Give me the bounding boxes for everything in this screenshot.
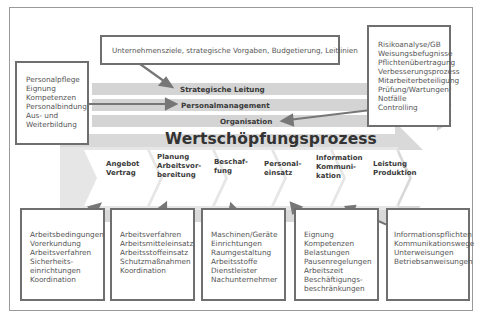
- step-planung: Planung Arbeitsvor- bereitung: [157, 153, 201, 180]
- bottom-box-line: Vorerkundung: [30, 239, 103, 248]
- right-box-line: Weisungsbefugnisse: [378, 49, 449, 58]
- step-line: Personal-: [264, 160, 301, 169]
- bottom-box-line: Arbeitsstoffeinsatz: [120, 248, 193, 257]
- left-box-line: Aus- und: [26, 111, 87, 120]
- bottom-box-line: Koordination: [30, 275, 103, 284]
- bottom-box-line: Unterweisungen: [394, 248, 468, 257]
- left-box-line: Personalpflege: [26, 75, 87, 84]
- risk-analysis-box: Risikoanalyse/GB Weisungsbefugnisse Pfli…: [367, 25, 451, 127]
- bottom-box-line: Informationspflichten: [394, 230, 468, 239]
- bottom-box-line: Beschäftigungs-: [304, 275, 377, 284]
- left-box-line: Weiterbildung: [26, 120, 87, 129]
- step-personaleinsatz: Personal- einsatz: [264, 160, 301, 178]
- bottom-box-line: Raumgestaltung: [211, 248, 284, 257]
- step-line: fung: [214, 167, 248, 176]
- step-line: Produktion: [373, 169, 417, 178]
- bottom-box-line: Arbeitsbedingungen: [30, 230, 103, 239]
- bottom-box-line: Eignung: [304, 230, 377, 239]
- personnel-care-box: Personalpflege Eignung Kompetenzen Perso…: [15, 61, 89, 145]
- value-chain-title: Wertschöpfungsprozess: [165, 130, 377, 148]
- step-line: Leistung: [373, 160, 417, 169]
- left-box-line: Personalbindung: [26, 102, 87, 111]
- band-label-organisation: Organisation: [220, 117, 272, 126]
- step-angebot-vertrag: Angebot Vertrag: [106, 160, 139, 178]
- work-procedures-box: Arbeitsverfahren Arbeitsmitteleinsatz Ar…: [110, 208, 195, 301]
- step-line: einsatz: [264, 169, 301, 178]
- strategic-goals-text: Unternehmensziele, strategische Vorgaben…: [112, 46, 338, 55]
- step-line: kation: [316, 172, 362, 181]
- step-line: Angebot: [106, 160, 139, 169]
- band-label-personalmanagement: Personalmanagement: [181, 101, 270, 110]
- work-conditions-box: Arbeitsbedingungen Vorerkundung Arbeitsv…: [20, 208, 105, 301]
- bottom-box-line: Arbeitsverfahren: [120, 230, 193, 239]
- bottom-box-line: Einrichtungen: [211, 239, 284, 248]
- step-line: Vertrag: [106, 169, 139, 178]
- left-box-line: Eignung: [26, 84, 87, 93]
- step-beschaffung: Beschaf- fung: [214, 158, 248, 176]
- bottom-box-line: Pausenregelungen: [304, 257, 377, 266]
- step-leistung-produktion: Leistung Produktion: [373, 160, 417, 178]
- right-box-line: Verbesserungsprozess: [378, 67, 449, 76]
- bottom-box-line: Schutzmaßnahmen: [120, 257, 193, 266]
- bottom-box-line: einrichtungen: [30, 266, 103, 275]
- bottom-box-line: Sicherheits-: [30, 257, 103, 266]
- bottom-box-line: Arbeitsmitteleinsatz: [120, 239, 193, 248]
- step-information-kommunikation: Information Kommuni- kation: [316, 154, 362, 181]
- process-chevrons: [84, 150, 463, 206]
- bottom-box-line: Kommunikationswege: [394, 239, 468, 248]
- bottom-box-line: Belastungen: [304, 248, 377, 257]
- strategic-goals-box: Unternehmensziele, strategische Vorgaben…: [100, 35, 340, 65]
- bottom-box-line: beschränkungen: [304, 284, 377, 293]
- bottom-box-line: Kompetenzen: [304, 239, 377, 248]
- right-box-line: Pflichtenübertragung: [378, 58, 449, 67]
- right-box-line: Prüfung/Wartungen: [378, 85, 449, 94]
- machines-equipment-box: Maschinen/Geräte Einrichtungen Raumgesta…: [201, 208, 286, 301]
- step-line: bereitung: [157, 171, 201, 180]
- bottom-box-line: Maschinen/Geräte: [211, 230, 284, 239]
- right-box-line: Notfälle: [378, 94, 449, 103]
- right-box-line: Controlling: [378, 103, 449, 112]
- bottom-box-line: Arbeitszeit: [304, 266, 377, 275]
- step-line: Planung: [157, 153, 201, 162]
- left-box-line: Kompetenzen: [26, 93, 87, 102]
- step-line: Kommuni-: [316, 163, 362, 172]
- bottom-box-line: Betriebsanweisungen: [394, 257, 468, 266]
- bottom-box-line: Koordination: [120, 266, 193, 275]
- bottom-box-line: Nachunternehmer: [211, 275, 284, 284]
- step-line: Beschaf-: [214, 158, 248, 167]
- information-duties-box: Informationspflichten Kommunikationswege…: [386, 208, 470, 301]
- bottom-box-line: Arbeitsverfahren: [30, 248, 103, 257]
- step-line: Information: [316, 154, 362, 163]
- step-line: Arbeitsvor-: [157, 162, 201, 171]
- right-box-line: Risikoanalyse/GB: [378, 40, 449, 49]
- bottom-box-line: Dienstleister: [211, 266, 284, 275]
- bottom-box-line: Arbeitsstoffe: [211, 257, 284, 266]
- right-box-line: Mitarbeiterbeteiligung: [378, 76, 449, 85]
- band-label-strategische-leitung: Strategische Leitung: [180, 85, 265, 94]
- personnel-suitability-box: Eignung Kompetenzen Belastungen Pausenre…: [294, 208, 379, 301]
